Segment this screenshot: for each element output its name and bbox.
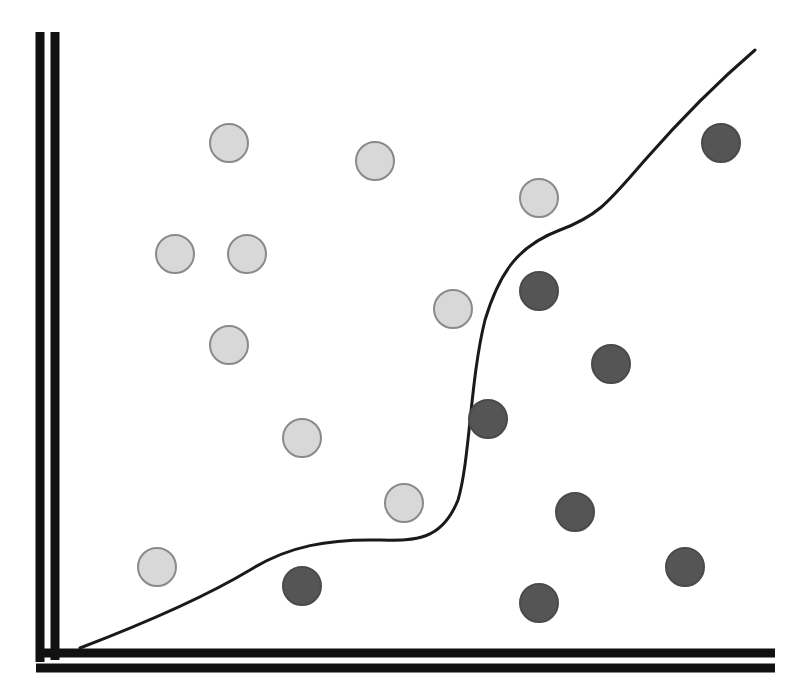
background [0, 0, 799, 690]
class-b-point [702, 124, 740, 162]
class-b-point [283, 567, 321, 605]
class-a-point [283, 419, 321, 457]
class-a-point [356, 142, 394, 180]
class-a-point [520, 179, 558, 217]
class-b-point [592, 345, 630, 383]
class-b-point [520, 272, 558, 310]
class-a-point [210, 326, 248, 364]
class-b-point [666, 548, 704, 586]
class-b-point [556, 493, 594, 531]
class-a-point [138, 548, 176, 586]
class-a-point [228, 235, 266, 273]
class-a-point [210, 124, 248, 162]
class-a-point [434, 290, 472, 328]
decision-boundary-diagram [0, 0, 799, 690]
class-b-point [520, 584, 558, 622]
class-a-point [156, 235, 194, 273]
class-a-point [385, 484, 423, 522]
class-b-point [469, 400, 507, 438]
